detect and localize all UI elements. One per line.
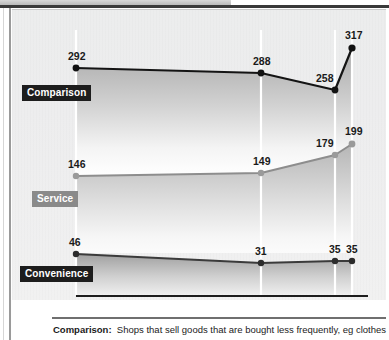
convenience-value-label-1: 46 bbox=[69, 237, 81, 248]
service-value-label-1: 146 bbox=[68, 159, 86, 170]
comparison-value-label-3: 258 bbox=[316, 73, 334, 84]
footnote-text: Shops that sell goods that are bought le… bbox=[112, 324, 386, 335]
chart-panel: 292 288 258 317 146 149 179 199 46 31 35… bbox=[12, 9, 386, 300]
service-value-label-4: 199 bbox=[345, 126, 363, 137]
series-badge-convenience: Convenience bbox=[20, 266, 93, 282]
comparison-value-label-1: 292 bbox=[68, 51, 86, 62]
footnote: Comparison: Shops that sell goods that a… bbox=[53, 324, 389, 336]
comparison-area-fill bbox=[76, 48, 352, 176]
page-root: 292 288 258 317 146 149 179 199 46 31 35… bbox=[0, 0, 389, 340]
x-axis-line bbox=[76, 295, 368, 297]
convenience-value-label-3: 35 bbox=[329, 244, 341, 255]
service-value-label-3: 179 bbox=[316, 138, 334, 149]
comparison-value-label-2: 288 bbox=[253, 56, 271, 67]
footnote-term: Comparison: bbox=[53, 324, 112, 335]
convenience-value-label-2: 31 bbox=[255, 246, 267, 257]
footnote-divider-rule bbox=[52, 317, 386, 319]
series-badge-service: Service bbox=[32, 191, 78, 207]
service-value-label-2: 149 bbox=[253, 156, 271, 167]
page-left-rule bbox=[9, 8, 11, 340]
top-divider-rule bbox=[0, 5, 389, 8]
comparison-value-label-4: 317 bbox=[345, 30, 363, 41]
page-left-hairline bbox=[3, 8, 4, 340]
convenience-value-label-4: 35 bbox=[346, 244, 358, 255]
series-badge-comparison: Comparison bbox=[22, 85, 91, 101]
